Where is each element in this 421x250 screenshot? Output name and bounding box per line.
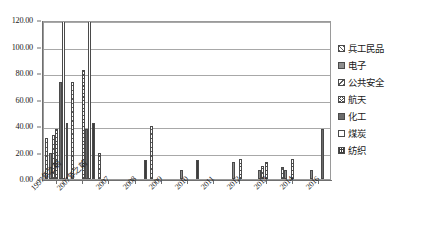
y-axis: 0.0020.0040.0060.0080.00100.00120.00 <box>0 0 41 181</box>
y-axis-tick-label: 100.00 <box>12 44 33 52</box>
y-axis-tick-mark <box>37 127 41 128</box>
legend-swatch-icon <box>338 113 345 120</box>
bar <box>71 82 74 179</box>
legend-item-hangtian[interactable]: 航天 <box>338 91 418 108</box>
y-axis-tick-mark <box>37 74 41 75</box>
legend-swatch-icon <box>338 45 345 52</box>
bar <box>196 160 199 179</box>
legend-item-label: 煤炭 <box>348 129 366 139</box>
y-axis-tick-mark <box>37 153 41 154</box>
legend-swatch-icon <box>338 130 345 137</box>
bar <box>321 129 324 179</box>
legend-item-label: 电子 <box>348 61 366 71</box>
legend-item-gonggong[interactable]: 公共安全 <box>338 74 418 91</box>
y-axis-tick-mark <box>37 47 41 48</box>
y-axis-tick-label: 80.00 <box>16 70 33 78</box>
y-axis-tick-label: 120.00 <box>12 17 33 25</box>
legend-swatch-icon <box>338 96 345 103</box>
legend-item-label: 兵工民品 <box>348 44 384 54</box>
legend-item-meitan[interactable]: 煤炭 <box>338 125 418 142</box>
legend-item-binggong[interactable]: 兵工民品 <box>338 40 418 57</box>
bars-layer <box>44 22 330 179</box>
bar <box>150 126 153 179</box>
legend-item-label: 化工 <box>348 112 366 122</box>
bar <box>239 159 242 179</box>
y-axis-tick-label: 60.00 <box>16 97 33 105</box>
legend-item-fangzhi[interactable]: 纺织 <box>338 142 418 159</box>
bar <box>144 160 147 179</box>
legend-item-label: 公共安全 <box>348 78 384 88</box>
bar <box>66 123 69 179</box>
plot-area <box>43 21 331 180</box>
chart-legend: 兵工民品电子公共安全航天化工煤炭纺织 <box>338 40 418 159</box>
y-axis-tick-mark <box>37 100 41 101</box>
legend-swatch-icon <box>338 79 345 86</box>
x-axis-labels: 1997年之前2007年之前20072008200920102011201220… <box>0 182 421 242</box>
legend-item-label: 纺织 <box>348 146 366 156</box>
legend-item-dianzi[interactable]: 电子 <box>338 57 418 74</box>
y-axis-tick-label: 20.00 <box>16 150 33 158</box>
legend-item-huagong[interactable]: 化工 <box>338 108 418 125</box>
bar <box>92 123 95 179</box>
bar <box>98 153 101 180</box>
legend-swatch-icon <box>338 147 345 154</box>
legend-item-label: 航天 <box>348 95 366 105</box>
chart-figure: 0.0020.0040.0060.0080.00100.00120.00 199… <box>0 0 421 250</box>
y-axis-tick-mark <box>37 21 41 22</box>
legend-swatch-icon <box>338 62 345 69</box>
y-axis-tick-label: 40.00 <box>16 123 33 131</box>
